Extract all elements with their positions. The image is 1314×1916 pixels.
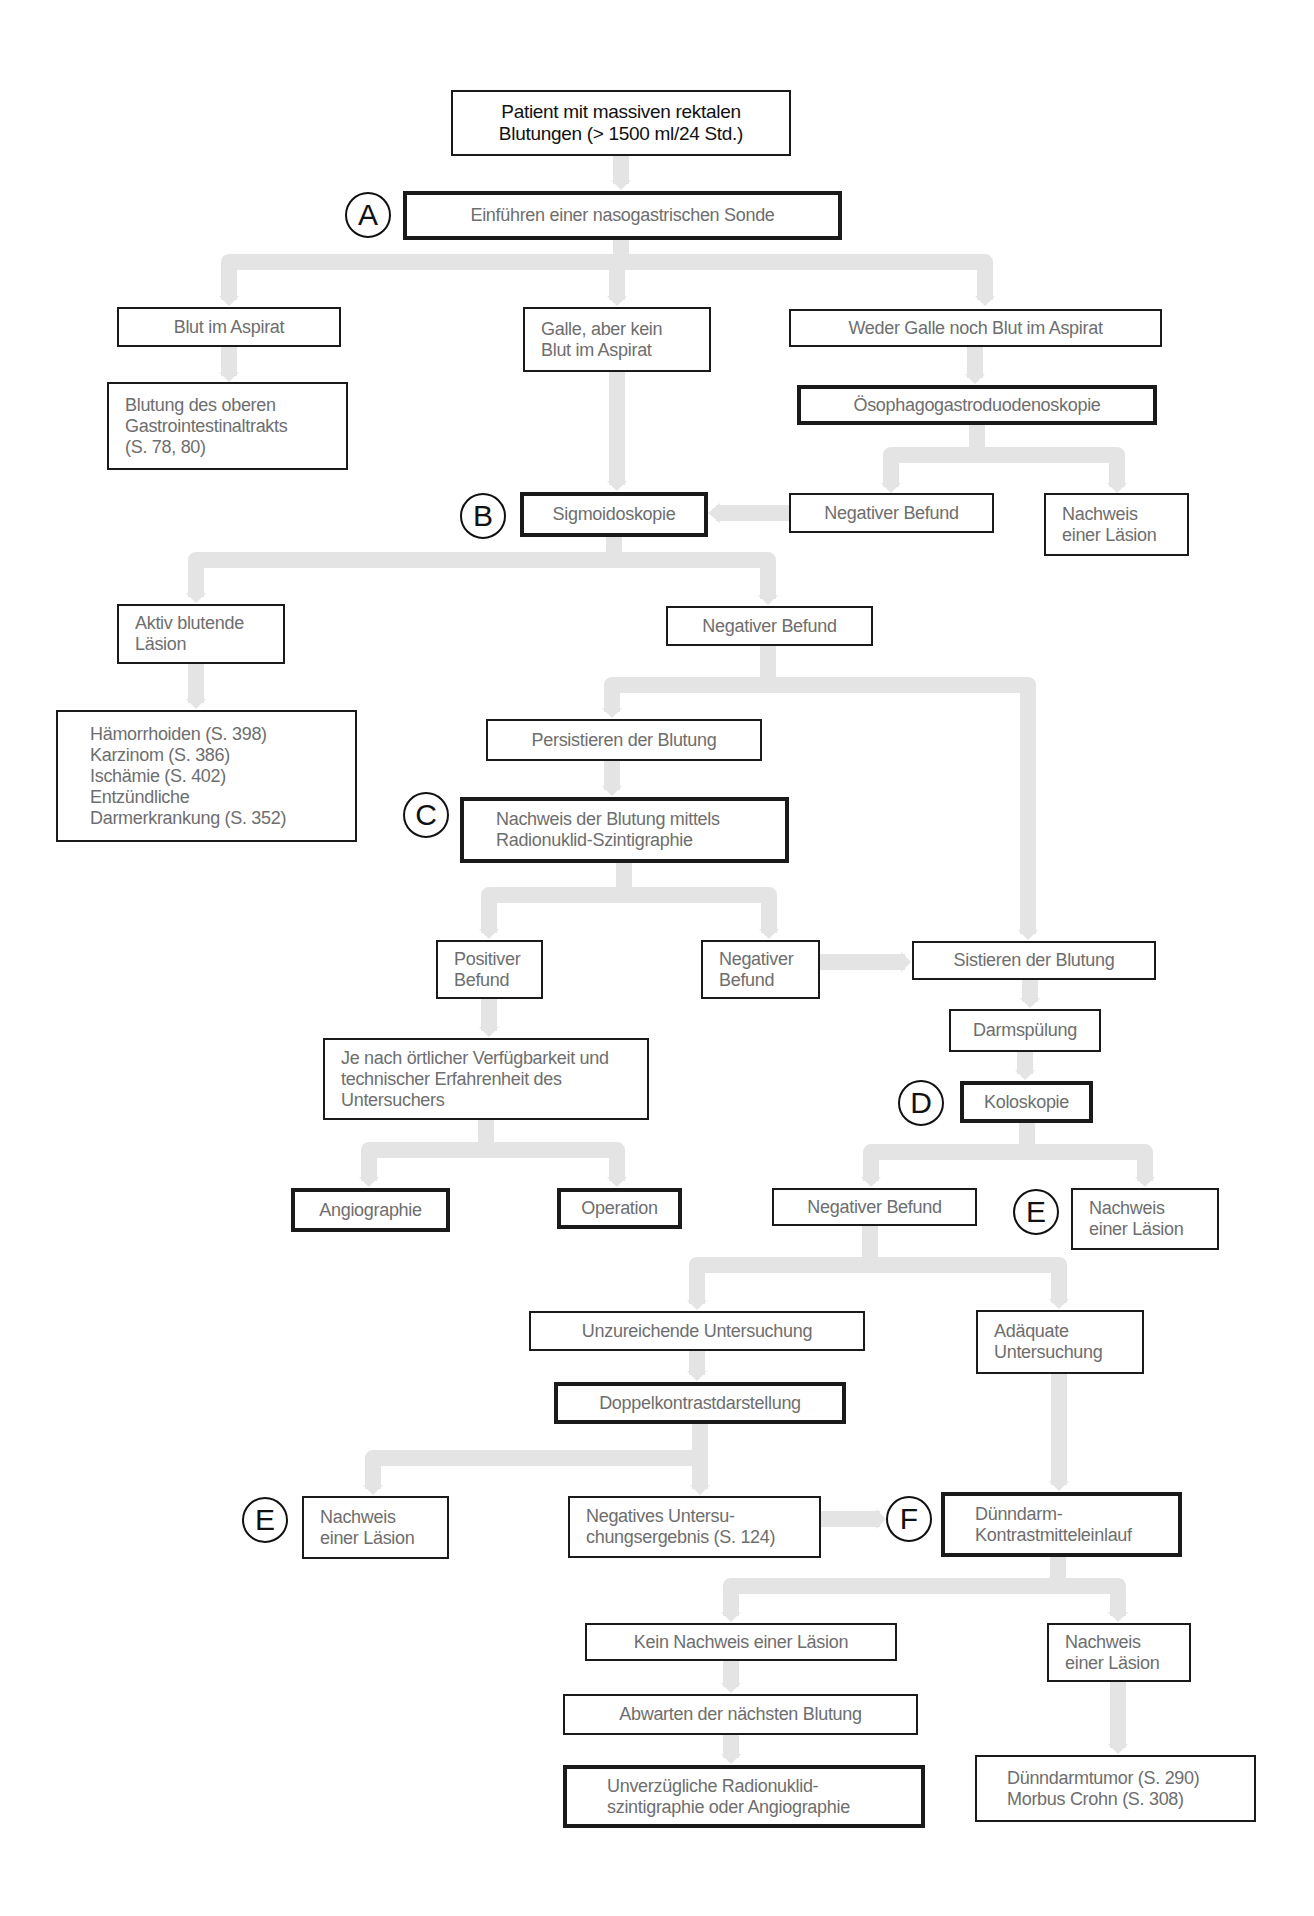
node-label: Nachweis einer Läsion	[320, 1507, 414, 1549]
node-label: Nachweis einer Läsion	[1062, 504, 1156, 546]
node-label: Positiver Befund	[454, 949, 520, 991]
node-sb-diagnoses: Dünndarmtumor (S. 290) Morbus Crohn (S. …	[975, 1755, 1256, 1822]
node-label: Negativer Befund	[719, 949, 793, 991]
node-label: Unzureichende Untersuchung	[582, 1321, 812, 1342]
node-sb-lesion: Nachweis einer Läsion	[1047, 1623, 1191, 1682]
node-label: Operation	[581, 1198, 657, 1219]
node-colonoscopy: Koloskopie	[960, 1081, 1093, 1123]
flowchart: Patient mit massiven rektalen Blutungen …	[0, 0, 1314, 1916]
node-start-label: Patient mit massiven rektalen Blutungen …	[499, 101, 743, 145]
node-label: Unverzügliche Radionuklid- szintigraphie…	[607, 1776, 850, 1818]
node-label: Negativer Befund	[702, 616, 836, 637]
node-label: Blutung des oberen Gastrointestinaltrakt…	[125, 395, 287, 458]
node-label: Persistieren der Blutung	[532, 730, 717, 751]
marker-d: D	[898, 1080, 944, 1126]
node-angiography: Angiographie	[291, 1188, 450, 1232]
node-label: Kein Nachweis einer Läsion	[634, 1632, 848, 1653]
node-label: Koloskopie	[984, 1092, 1069, 1113]
node-label: Negatives Untersu- chungsergebnis (S. 12…	[586, 1506, 775, 1548]
marker-b: B	[460, 493, 506, 539]
node-label: Je nach örtlicher Verfügbarkeit und tech…	[341, 1048, 609, 1111]
node-label: Doppelkontrastdarstellung	[599, 1393, 801, 1414]
node-sigmo-negative: Negativer Befund	[666, 606, 873, 646]
node-label: Galle, aber kein Blut im Aspirat	[541, 319, 662, 361]
node-egd-lesion: Nachweis einer Läsion	[1044, 493, 1189, 556]
node-egd-negative: Negativer Befund	[789, 493, 994, 533]
node-label: Negativer Befund	[807, 1197, 941, 1218]
node-label: Dünndarmtumor (S. 290) Morbus Crohn (S. …	[1007, 1768, 1199, 1810]
node-small-bowel-enema: Dünndarm- Kontrastmitteleinlauf	[941, 1492, 1182, 1557]
node-label: Adäquate Untersuchung	[994, 1321, 1102, 1363]
node-label: Abwarten der nächsten Blutung	[619, 1704, 861, 1725]
node-bile-no-blood: Galle, aber kein Blut im Aspirat	[523, 307, 711, 372]
node-upper-gi-bleeding: Blutung des oberen Gastrointestinaltrakt…	[107, 382, 348, 470]
node-depending: Je nach örtlicher Verfügbarkeit und tech…	[323, 1038, 649, 1120]
node-start: Patient mit massiven rektalen Blutungen …	[451, 90, 791, 156]
node-label: Nachweis einer Läsion	[1065, 1632, 1159, 1674]
node-label: Negativer Befund	[824, 503, 958, 524]
node-operation: Operation	[557, 1188, 682, 1229]
node-label: Sigmoidoskopie	[553, 504, 676, 525]
node-label: Nachweis einer Läsion	[1089, 1198, 1183, 1240]
node-neither: Weder Galle noch Blut im Aspirat	[789, 309, 1162, 347]
node-no-lesion: Kein Nachweis einer Läsion	[585, 1623, 897, 1661]
node-blood-in-aspirate: Blut im Aspirat	[117, 307, 341, 347]
marker-c: C	[403, 792, 449, 838]
node-positive: Positiver Befund	[436, 940, 543, 999]
node-label: Weder Galle noch Blut im Aspirat	[848, 318, 1102, 339]
marker-a: A	[345, 192, 391, 238]
node-label: Angiographie	[319, 1200, 421, 1221]
node-double-contrast: Doppelkontrastdarstellung	[554, 1382, 846, 1424]
node-adequate: Adäquate Untersuchung	[976, 1310, 1144, 1374]
node-dc-lesion: Nachweis einer Läsion	[302, 1496, 449, 1559]
marker-f: F	[886, 1496, 932, 1542]
marker-e-2: E	[242, 1497, 288, 1543]
node-stopped: Sistieren der Blutung	[912, 941, 1156, 980]
node-wait: Abwarten der nächsten Blutung	[563, 1694, 918, 1735]
node-sigmoidoscopy: Sigmoidoskopie	[520, 492, 708, 537]
node-persisting: Persistieren der Blutung	[486, 719, 762, 761]
node-active-lesion: Aktiv blutende Läsion	[117, 604, 285, 664]
node-label: Blut im Aspirat	[174, 317, 285, 338]
node-immediate: Unverzügliche Radionuklid- szintigraphie…	[563, 1765, 925, 1828]
node-scinti-negative: Negativer Befund	[701, 940, 820, 999]
node-label: Nachweis der Blutung mittels Radionuklid…	[496, 809, 720, 851]
node-colo-lesion: Nachweis einer Läsion	[1071, 1188, 1219, 1250]
node-egd: Ösophagogastroduodenoskopie	[797, 385, 1157, 425]
node-nasogastric-label: Einführen einer nasogastrischen Sonde	[470, 205, 774, 226]
node-label: Hämorrhoiden (S. 398) Karzinom (S. 386) …	[90, 724, 286, 829]
node-lower-diagnoses: Hämorrhoiden (S. 398) Karzinom (S. 386) …	[56, 710, 357, 842]
node-dc-negative: Negatives Untersu- chungsergebnis (S. 12…	[568, 1496, 821, 1558]
node-label: Aktiv blutende Läsion	[135, 613, 244, 655]
node-label: Sistieren der Blutung	[954, 950, 1115, 971]
node-lavage: Darmspülung	[949, 1009, 1101, 1052]
node-colo-negative: Negativer Befund	[772, 1188, 977, 1226]
node-insufficient: Unzureichende Untersuchung	[529, 1311, 865, 1351]
node-label: Darmspülung	[973, 1020, 1077, 1041]
node-scintigraphy: Nachweis der Blutung mittels Radionuklid…	[460, 797, 789, 863]
node-nasogastric-tube: Einführen einer nasogastrischen Sonde	[403, 191, 842, 240]
node-label: Dünndarm- Kontrastmitteleinlauf	[975, 1504, 1132, 1546]
node-label: Ösophagogastroduodenoskopie	[853, 395, 1100, 416]
marker-e-1: E	[1013, 1189, 1059, 1235]
